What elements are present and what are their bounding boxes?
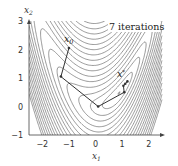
y-tick-label: 3 — [18, 17, 23, 26]
y-axis-arrow-icon — [27, 19, 31, 24]
iterate-point — [68, 47, 71, 50]
y-tick-label: −1 — [11, 131, 23, 140]
iterate-point — [126, 80, 129, 83]
iterations-caption: 7 iterations — [109, 21, 164, 32]
contour-lines — [29, 21, 162, 135]
start-point-label: x0 — [64, 33, 74, 46]
x-tick-label: −2 — [36, 140, 48, 149]
y-tick-label: 1 — [18, 74, 23, 83]
x-tick-label: 2 — [146, 140, 151, 149]
optimum-label: x* — [117, 68, 125, 79]
x-axis-arrow-icon — [160, 133, 165, 137]
x-tick-labels: −2−1012 — [36, 140, 151, 149]
x-tick-label: 0 — [93, 140, 98, 149]
iterate-point — [60, 75, 63, 78]
contour-line — [118, 92, 120, 95]
iterate-point — [122, 84, 125, 87]
iterate-point — [123, 91, 126, 94]
iterate-point — [97, 105, 100, 108]
y-tick-label: 0 — [18, 103, 23, 112]
contour-line — [29, 88, 162, 135]
y-axis-label: x2 — [24, 5, 33, 16]
x-tick-label: 1 — [120, 140, 125, 149]
y-tick-labels: −10123 — [11, 17, 23, 140]
contour-plot: −2−1012 −10123 x1 x2 x0 x* 7 iterations — [0, 0, 178, 166]
y-tick-label: 2 — [18, 46, 23, 55]
contour-line — [34, 21, 162, 135]
x-tick-label: −1 — [63, 140, 75, 149]
iterate-point — [124, 82, 127, 85]
x-axis-label: x1 — [92, 151, 101, 162]
